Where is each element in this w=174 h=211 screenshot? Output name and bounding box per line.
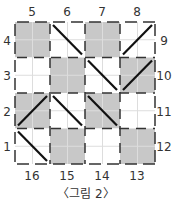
bottom-label-13: 13 [129, 169, 144, 183]
top-label-6: 6 [63, 5, 71, 19]
left-label-4: 4 [3, 34, 11, 48]
bottom-label-16: 16 [24, 169, 39, 183]
bottom-label-15: 15 [59, 169, 74, 183]
top-label-5: 5 [28, 5, 36, 19]
figure-caption: 〈그림 2〉 [57, 187, 114, 201]
right-label-9: 9 [160, 34, 168, 48]
grid-figure: 5 6 7 8 4 3 2 1 9 10 11 12 16 15 14 13 〈… [0, 0, 174, 211]
right-label-11: 11 [156, 105, 171, 119]
bottom-label-14: 14 [94, 169, 109, 183]
left-label-3: 3 [3, 69, 11, 83]
top-label-8: 8 [133, 5, 141, 19]
right-label-10: 10 [156, 69, 171, 83]
left-label-2: 2 [3, 105, 11, 119]
left-label-1: 1 [3, 140, 11, 154]
right-label-12: 12 [156, 140, 171, 154]
top-label-7: 7 [98, 5, 106, 19]
